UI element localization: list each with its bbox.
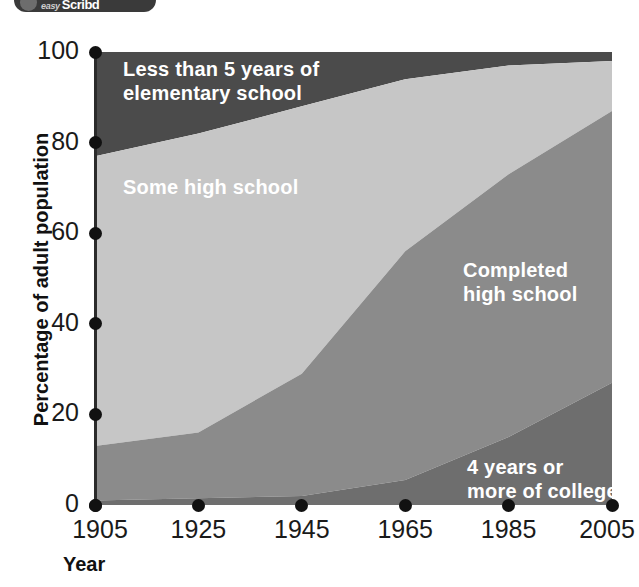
stacked-area-chart: 020406080100 190519251945196519852005 Pe… xyxy=(0,0,639,587)
less-than-5-years-label-line2: elementary school xyxy=(123,81,319,105)
completed-high-school-label-line2: high school xyxy=(463,282,577,306)
completed-high-school-label: Completed high school xyxy=(463,258,577,306)
completed-high-school-label-line1: Completed xyxy=(463,258,577,282)
y-axis-line xyxy=(94,52,97,506)
college-label-line2: more of college xyxy=(467,479,618,503)
less-than-5-years-label-line1: Less than 5 years of xyxy=(123,57,319,81)
some-high-school-label: Some high school xyxy=(123,175,298,199)
some-high-school-label-line1: Some high school xyxy=(123,175,298,199)
y-tick-dot xyxy=(89,317,102,330)
college-label: 4 years or more of college xyxy=(467,455,618,503)
y-tick-dot xyxy=(89,46,102,59)
x-axis-title: Year xyxy=(63,553,105,576)
x-tick-label: 2005 xyxy=(552,515,639,544)
x-tick-label: 1965 xyxy=(350,515,460,544)
y-tick-dot xyxy=(89,227,102,240)
less-than-5-years-label: Less than 5 years of elementary school xyxy=(123,57,319,105)
college-label-line1: 4 years or xyxy=(467,455,618,479)
y-tick-dot xyxy=(89,136,102,149)
x-tick-label: 1985 xyxy=(454,515,564,544)
y-axis-title: Percentage of adult population xyxy=(30,55,53,505)
x-tick-label: 1945 xyxy=(247,515,357,544)
y-tick-dot xyxy=(89,408,102,421)
x-tick-label: 1905 xyxy=(45,515,155,544)
x-axis-line xyxy=(95,504,612,506)
x-tick-label: 1925 xyxy=(143,515,253,544)
